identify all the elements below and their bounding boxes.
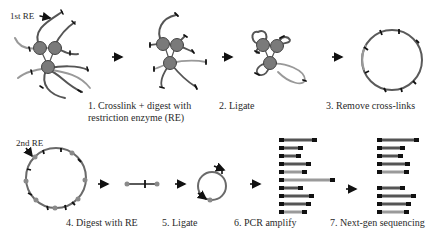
first-re-label: 1st RE [10, 11, 34, 22]
fragment-bar [377, 162, 410, 166]
fragment-bar [279, 154, 301, 158]
first-re-arrow-icon [40, 16, 50, 18]
step5-ligated-circle [198, 166, 226, 203]
fragment-bar [279, 210, 307, 214]
fragment-bar [377, 186, 405, 190]
step3-circular-ligation-product [362, 29, 422, 92]
fragment-bar [377, 210, 409, 214]
step-6-label: 6. PCR amplify [234, 217, 297, 228]
fragment-bar [377, 154, 403, 158]
step2-digested-fragments [150, 13, 206, 89]
second-re-label: 2nd RE [16, 138, 43, 149]
step-7-label: 7. Next-gen sequencing [330, 217, 425, 228]
fragment-bar [279, 170, 307, 174]
step-4-label: 4. Digest with RE [66, 217, 138, 228]
step-1-label-line2: restriction enzyme (RE) [88, 112, 184, 123]
second-re-arrow-icon [26, 148, 32, 156]
fragment-bar [377, 202, 411, 206]
fragment-bar [279, 202, 311, 206]
fragment-bar [377, 170, 409, 174]
fragment-bar [279, 194, 314, 198]
sequencing-reads [377, 138, 419, 214]
fragment-bar [377, 138, 419, 142]
fragment-bar [377, 194, 416, 198]
step2-ligated-loops [252, 31, 306, 83]
primer-arrow-icon [198, 193, 206, 199]
fragment-bar [279, 178, 335, 182]
pcr-amplified-fragments [279, 138, 335, 214]
step-5-label: 5. Ligate [162, 217, 198, 228]
step4-fragment [125, 180, 160, 188]
step-1-label: 1. Crosslink + digest with [88, 100, 191, 111]
fragment-bar [279, 146, 303, 150]
fragment-bar [279, 186, 303, 190]
step-2-label: 2. Ligate [219, 100, 255, 111]
fragment-bar [279, 138, 317, 142]
chromosome-conformation-capture-diagram [0, 0, 435, 233]
step4-digested-circle [24, 148, 88, 211]
fragment-bar [377, 146, 405, 150]
step1-crosslinked-chromatin [15, 10, 90, 98]
fragment-bar [279, 162, 311, 166]
step-3-label: 3. Remove cross-links [326, 100, 415, 111]
